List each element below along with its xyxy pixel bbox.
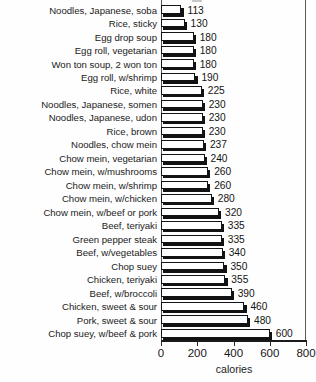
bar-row: Rice, white225	[0, 85, 316, 99]
bar	[161, 154, 208, 165]
bar-value-label: 113	[187, 5, 203, 16]
x-axis-title: calories	[161, 363, 307, 375]
bar-category-label: Pork, sweet & sour	[77, 315, 157, 326]
bar-value-label: 600	[276, 328, 293, 339]
bar	[161, 140, 207, 151]
bar-category-label: Beef, w/broccoli	[90, 288, 157, 299]
bar-row: Chow mein, w/mushrooms260	[0, 166, 316, 180]
x-tick-label: 600	[260, 347, 279, 360]
x-tick-label: 0	[158, 347, 164, 360]
bar-face	[161, 86, 202, 95]
bar	[161, 288, 235, 299]
bar-face	[161, 19, 185, 28]
bar-value-label: 180	[200, 59, 217, 70]
bar-face	[161, 235, 222, 244]
bar-face	[161, 275, 225, 284]
bar	[161, 46, 197, 57]
x-tick-label: 800	[296, 347, 315, 360]
bar-category-label: Chicken, teriyaki	[87, 274, 157, 285]
bar-category-label: Egg drop soup	[95, 32, 157, 43]
bar-category-label: Won ton soup, 2 won ton	[52, 59, 158, 70]
bar	[161, 315, 251, 326]
bar	[161, 167, 211, 178]
bar-value-label: 260	[214, 180, 231, 191]
x-axis-tick-labels: 0200400600800	[0, 347, 316, 361]
bar-row: Egg drop soup180	[0, 31, 316, 45]
bar-face	[161, 59, 194, 68]
bar-row: Green pepper steak335	[0, 233, 316, 247]
bar-face	[161, 329, 270, 338]
bar-row: Beef, w/broccoli390	[0, 287, 316, 301]
bar-value-label: 225	[208, 85, 225, 96]
bar-value-label: 320	[225, 207, 242, 218]
bar-category-label: Green pepper steak	[73, 234, 157, 245]
bar-category-label: Beef, teriyaki	[102, 220, 157, 231]
bar-row: Egg roll, vegetarian180	[0, 45, 316, 59]
bar-value-label: 340	[229, 247, 246, 258]
bar-face	[161, 208, 219, 217]
bar-category-label: Chow mein, w/beef or pork	[43, 207, 157, 218]
bar-value-label: 350	[230, 261, 247, 272]
bar-category-label: Chow mein, w/mushrooms	[44, 166, 157, 177]
bar-row: Chow mein, vegetarian240	[0, 152, 316, 166]
bar-row: Pork, sweet & sour480	[0, 314, 316, 328]
bar-row: Beef, teriyaki335	[0, 220, 316, 234]
bar-value-label: 460	[250, 301, 267, 312]
bar	[161, 113, 206, 124]
bar	[161, 221, 225, 232]
bar-face	[161, 5, 181, 14]
bar-row: Chow mein, w/beef or pork320	[0, 206, 316, 220]
bar	[161, 73, 198, 84]
bar-row: Egg roll, w/shrimp190	[0, 72, 316, 86]
bar-value-label: 260	[214, 166, 231, 177]
bar-category-label: Noodles, chow mein	[71, 139, 157, 150]
bar-row: Noodles, chow mein237	[0, 139, 316, 153]
bar	[161, 329, 273, 340]
x-tick-label: 400	[224, 347, 243, 360]
bar-rows-container: Noodles, Japanese, soba113Rice, sticky13…	[0, 0, 316, 341]
bar	[161, 19, 188, 30]
bar-face	[161, 46, 194, 55]
bar	[161, 59, 197, 70]
bar-row: Rice, brown230	[0, 126, 316, 140]
bar-face	[161, 221, 222, 230]
bar-category-label: Rice, white	[110, 85, 157, 96]
bar	[161, 181, 211, 192]
x-tick-mark	[197, 341, 198, 346]
bar-row: Chop suey350	[0, 260, 316, 274]
bar-value-label: 240	[211, 153, 228, 164]
bar-row: Rice, sticky130	[0, 18, 316, 32]
bar-category-label: Chow mein, w/chicken	[62, 193, 157, 204]
bar-row: Chow mein, w/chicken280	[0, 193, 316, 207]
bar-face	[161, 140, 204, 149]
bar	[161, 275, 228, 286]
bar	[161, 208, 222, 219]
bar-category-label: Noodles, Japanese, somen	[41, 99, 157, 110]
bar-value-label: 180	[200, 45, 217, 56]
x-tick-mark	[306, 341, 307, 346]
bar-category-label: Noodles, Japanese, udon	[49, 112, 157, 123]
bar-face	[161, 113, 203, 122]
bar-category-label: Noodles, Japanese, soba	[49, 5, 157, 16]
bar-category-label: Chow mein, w/shrimp	[66, 180, 157, 191]
bar	[161, 32, 197, 43]
x-tick-mark	[270, 341, 271, 346]
bar-face	[161, 248, 223, 257]
bar-face	[161, 127, 203, 136]
bar-face	[161, 315, 248, 324]
bar-row: Noodles, Japanese, soba113	[0, 4, 316, 18]
bar-value-label: 190	[201, 72, 218, 83]
bar-category-label: Egg roll, vegetarian	[75, 45, 157, 56]
bar-category-label: Chop suey, w/beef & pork	[48, 328, 157, 339]
bar-row: Noodles, Japanese, somen230	[0, 99, 316, 113]
bar-chart-figure: Noodles, Japanese, soba113Rice, sticky13…	[0, 0, 316, 382]
bar-category-label: Egg roll, w/shrimp	[81, 72, 157, 83]
bar-face	[161, 181, 208, 190]
bar	[161, 5, 184, 16]
bar	[161, 100, 206, 111]
bar-value-label: 280	[218, 193, 235, 204]
x-tick-mark	[234, 341, 235, 346]
bar-face	[161, 73, 195, 82]
bar-face	[161, 302, 244, 311]
bar-value-label: 390	[238, 288, 255, 299]
